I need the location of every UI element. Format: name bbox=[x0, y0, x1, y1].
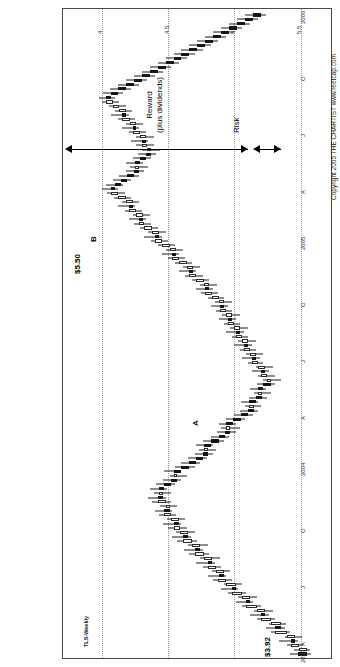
candle-body bbox=[106, 96, 111, 99]
candle-body bbox=[226, 422, 233, 425]
candlestick bbox=[208, 574, 227, 577]
candlestick bbox=[106, 183, 123, 186]
candle-body bbox=[183, 535, 188, 538]
candlestick bbox=[181, 461, 200, 464]
candle-body bbox=[226, 313, 231, 316]
candle-body bbox=[237, 22, 245, 25]
candle-body bbox=[197, 44, 205, 47]
gridline bbox=[234, 9, 235, 659]
candlestick bbox=[175, 466, 195, 469]
candle-body bbox=[261, 374, 268, 377]
candle-body bbox=[267, 379, 271, 382]
candlestick bbox=[211, 435, 230, 438]
candle-body bbox=[196, 457, 203, 460]
candle-body bbox=[257, 609, 265, 612]
candlestick bbox=[237, 18, 258, 21]
candle-body bbox=[195, 552, 204, 555]
candlestick bbox=[203, 439, 224, 442]
candle-body bbox=[252, 357, 256, 360]
candlestick bbox=[126, 79, 147, 82]
candle-body bbox=[155, 235, 159, 238]
candle-body bbox=[291, 639, 295, 642]
candlestick bbox=[232, 335, 248, 338]
candle-body bbox=[181, 466, 189, 469]
series-label: TLS-Weekly bbox=[83, 616, 89, 647]
candle-body bbox=[142, 144, 147, 147]
candle-body bbox=[121, 179, 128, 182]
candlestick bbox=[269, 622, 286, 625]
candlestick bbox=[102, 100, 119, 103]
candle-body bbox=[249, 400, 256, 403]
candlestick bbox=[240, 348, 256, 351]
reward-arrow-start bbox=[65, 145, 72, 153]
candlestick bbox=[188, 544, 208, 547]
candlestick bbox=[203, 566, 222, 569]
candle-body bbox=[249, 405, 254, 408]
candlestick bbox=[211, 305, 228, 308]
candle-body bbox=[130, 122, 137, 125]
candle-body bbox=[221, 31, 229, 34]
candle-body bbox=[196, 279, 204, 282]
candlestick bbox=[126, 161, 143, 164]
candlestick bbox=[245, 405, 261, 408]
candlestick bbox=[192, 279, 209, 282]
candle-body bbox=[183, 539, 192, 542]
candle-wick bbox=[130, 167, 149, 168]
candle-body bbox=[244, 348, 251, 351]
candle-body bbox=[204, 283, 209, 286]
candle-body bbox=[246, 600, 250, 603]
candlestick bbox=[99, 96, 115, 99]
candle-body bbox=[159, 492, 163, 495]
candlestick bbox=[234, 344, 251, 347]
candlestick bbox=[199, 448, 216, 451]
candlestick bbox=[250, 613, 269, 616]
candlestick bbox=[195, 452, 214, 455]
candlestick bbox=[183, 266, 200, 269]
risk-annotation: Risk bbox=[232, 117, 241, 133]
x-axis-tick-label: A bbox=[300, 416, 306, 420]
candlestick bbox=[254, 609, 273, 612]
candlestick bbox=[179, 270, 196, 273]
candle-body bbox=[213, 35, 221, 38]
candlestick bbox=[241, 400, 258, 403]
candlestick bbox=[189, 44, 210, 47]
x-axis-tick-label: O bbox=[300, 76, 306, 81]
copyright-line: Copyright 2005 THE CHARTIST www.reefcap.… bbox=[330, 54, 337, 200]
candle-body bbox=[146, 153, 151, 156]
reward-arrow-end bbox=[241, 145, 248, 153]
plot-area bbox=[63, 9, 332, 659]
candlestick bbox=[163, 479, 182, 482]
candlestick bbox=[242, 605, 261, 608]
candle-body bbox=[204, 444, 211, 447]
candlestick bbox=[156, 483, 175, 486]
candlestick bbox=[184, 548, 203, 551]
candlestick bbox=[224, 583, 243, 586]
candle-body bbox=[219, 435, 226, 438]
candle-wick bbox=[179, 271, 196, 272]
candlestick bbox=[271, 631, 290, 634]
risk-arrow-end bbox=[274, 145, 281, 153]
candle-body bbox=[170, 248, 177, 251]
candlestick bbox=[200, 283, 217, 286]
price-label-high: $5.50 bbox=[73, 254, 82, 274]
candlestick bbox=[219, 318, 236, 321]
candle-body bbox=[192, 544, 200, 547]
candlestick bbox=[196, 444, 213, 447]
candlestick bbox=[242, 357, 259, 360]
candle-body bbox=[234, 326, 239, 329]
candlestick bbox=[257, 618, 276, 621]
x-axis-tick-label: 2004 bbox=[300, 463, 306, 476]
candlestick bbox=[176, 531, 195, 534]
candle-body bbox=[174, 522, 179, 525]
candlestick bbox=[196, 561, 215, 564]
candlestick bbox=[181, 48, 202, 51]
candlestick bbox=[226, 418, 245, 421]
candle-wick bbox=[144, 236, 161, 237]
candlestick bbox=[133, 157, 152, 160]
candlestick bbox=[234, 413, 253, 416]
candle-body bbox=[261, 370, 265, 373]
candle-body bbox=[275, 626, 280, 629]
candlestick bbox=[164, 470, 180, 473]
candlestick bbox=[129, 131, 146, 134]
candlestick bbox=[168, 257, 185, 260]
